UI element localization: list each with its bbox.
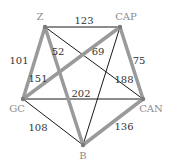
edge-weight-z-cap: 123 xyxy=(74,15,93,26)
node-label-b: B xyxy=(79,150,86,161)
edge-weight-gc-can: 202 xyxy=(71,88,90,99)
node-label-can: CAN xyxy=(139,103,163,114)
edge-weight-z-can: 188 xyxy=(114,74,133,85)
node-can xyxy=(141,97,145,101)
edge-weight-gc-b: 108 xyxy=(28,122,47,133)
node-label-z: Z xyxy=(37,11,44,22)
node-b xyxy=(81,143,85,147)
node-cap xyxy=(118,25,122,29)
edge-can-b xyxy=(83,99,143,145)
node-label-gc: GC xyxy=(9,103,25,114)
edge-weight-cap-can: 75 xyxy=(133,55,146,66)
edge-z-can xyxy=(45,27,143,99)
edge-z-b xyxy=(45,27,83,145)
edge-weight-z-b: 52 xyxy=(52,46,65,57)
edge-weight-cap-b: 69 xyxy=(92,46,105,57)
node-z xyxy=(43,25,47,29)
edge-weight-z-gc: 101 xyxy=(9,55,28,66)
node-label-cap: CAP xyxy=(115,11,137,22)
graph-diagram: 123101521881516975202108136ZCAPGCCANB xyxy=(0,0,170,167)
edge-weight-cap-gc: 151 xyxy=(28,73,47,84)
node-gc xyxy=(21,97,25,101)
edge-weight-can-b: 136 xyxy=(114,121,133,132)
